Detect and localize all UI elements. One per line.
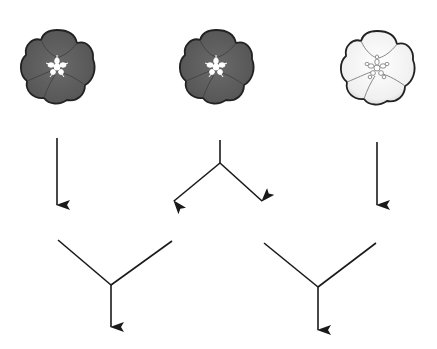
dark-flower-icon: [21, 30, 95, 104]
merge-arrow-icon: [58, 240, 172, 327]
merge-arrow-icon: [264, 243, 376, 330]
fork-arrow-icon: [174, 140, 262, 201]
white-flower-icon: [341, 31, 415, 105]
cross-diagram: [0, 0, 437, 349]
dark-flower-icon: [180, 30, 254, 104]
